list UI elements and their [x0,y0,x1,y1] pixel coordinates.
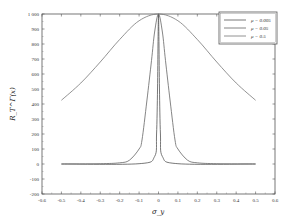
x-tick-label: 0.6 [272,198,279,203]
line-chart: -200-10001002003004005006007008009001 00… [0,0,291,221]
legend-label: μ = 0.005 [251,18,271,23]
y-tick-label: -100 [30,177,40,182]
x-tick-label: -0.6 [38,198,46,203]
y-axis-label: R_T^Γ(x) [9,87,17,122]
y-tick-label: 200 [32,132,40,137]
legend: μ = 0.005μ = 0.05μ = 0.5 [219,12,277,44]
x-tick-label: -0.1 [135,198,143,203]
y-tick-label: 0 [37,162,40,167]
x-tick-label: 0.3 [214,198,221,203]
y-tick-label: 500 [32,87,40,92]
y-tick-label: 900 [32,27,40,32]
y-tick-label: -200 [30,192,40,197]
x-tick-label: 0.1 [175,198,182,203]
y-tick-label: 100 [32,147,40,152]
legend-label: μ = 0.5 [251,34,266,39]
y-tick-label: 600 [32,72,40,77]
legend-label: μ = 0.05 [251,26,269,31]
x-axis-label: σ_y [152,208,165,216]
y-tick-label: 300 [32,117,40,122]
y-tick-label: 1 000 [28,12,40,17]
x-tick-label: -0.4 [77,198,85,203]
x-tick-label: 0 [157,198,160,203]
x-tick-label: -0.3 [96,198,104,203]
y-tick-label: 400 [32,102,40,107]
y-tick-label: 800 [32,42,40,47]
x-tick-label: 0.2 [194,198,201,203]
x-tick-label: -0.5 [57,198,65,203]
x-tick-label: -0.2 [116,198,124,203]
y-tick-label: 700 [32,57,40,62]
x-tick-label: 0.5 [252,198,259,203]
x-tick-label: 0.4 [233,198,240,203]
